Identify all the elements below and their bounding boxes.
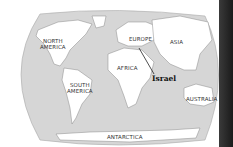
world-map [0, 0, 233, 147]
label-europe: EUROPE [129, 36, 152, 42]
label-north-america: NORTH AMERICA [40, 38, 66, 50]
label-south-america: SOUTH AMERICA [67, 82, 93, 94]
label-australia: AUSTRALIA [186, 96, 217, 102]
australia-shape [184, 84, 214, 106]
label-antarctica: ANTARCTICA [107, 134, 143, 140]
label-israel: Israel [152, 74, 176, 83]
label-africa: AFRICA [117, 65, 138, 71]
label-asia: ASIA [170, 39, 183, 45]
